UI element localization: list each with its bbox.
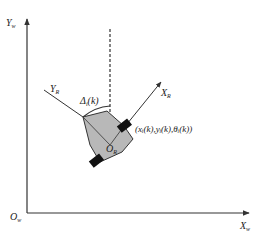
world-origin-label: Ow bbox=[10, 211, 21, 223]
robot-y-label: YR bbox=[50, 83, 60, 95]
robot-pose-diagram: Yw Xw Ow YR XR OR Δi(k) (xᵢ(k),yᵢ(k),θᵢ(… bbox=[0, 0, 267, 242]
world-x-label: Xw bbox=[239, 220, 250, 232]
pose-label: (xᵢ(k),yᵢ(k),θᵢ(k)) bbox=[135, 124, 192, 134]
robot-x-label: XR bbox=[160, 87, 171, 99]
world-y-label: Yw bbox=[6, 17, 16, 29]
robot-y-axis bbox=[44, 90, 83, 117]
angle-label: Δi(k) bbox=[79, 95, 99, 107]
robot-body bbox=[83, 111, 133, 162]
